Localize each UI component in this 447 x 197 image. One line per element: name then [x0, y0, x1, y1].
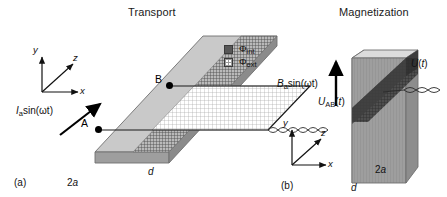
current-rest: sin(ωt)	[23, 105, 53, 116]
current-drive-label: Iasin(ωt)	[16, 105, 53, 116]
point-marker-a	[95, 126, 102, 133]
point-marker-b	[166, 82, 173, 89]
panel-b-tag: (b)	[281, 180, 293, 191]
voltage-rest-b: (t)	[418, 58, 427, 69]
legend-label-flux-internal: Φint	[239, 43, 255, 54]
width-label-a-italic: a	[73, 177, 79, 188]
figure-root: Transport y z x Iasin(ωt) A B UAB(t) d 2…	[0, 0, 447, 197]
thickness-label-a: d	[148, 166, 154, 177]
voltage-subscript-ab: AB	[325, 100, 335, 109]
width-label-a: 2a	[67, 177, 78, 188]
field-symbol: B	[277, 78, 284, 89]
field-rest: sin(ωt)	[288, 78, 318, 89]
thickness-label-b: d	[351, 182, 357, 193]
panel-b-title: Magnetization	[339, 6, 409, 18]
panel-a-title: Transport	[128, 6, 176, 18]
point-label-b: B	[155, 73, 162, 85]
axis-label-x-b: x	[328, 158, 333, 169]
legend-sub-int: int	[247, 47, 255, 56]
width-label-b: 2a	[375, 164, 386, 175]
voltage-label-ab: UAB(t)	[318, 96, 345, 107]
width-label-b-italic: a	[381, 164, 387, 175]
axis-label-y-b: y	[283, 117, 288, 128]
current-drive-arrow	[60, 104, 100, 135]
field-subscript: a	[284, 82, 288, 91]
twisted-pair-lead-a	[268, 128, 328, 133]
field-drive-label: Basin(ωt)	[277, 78, 318, 89]
voltage-label-b: U(t)	[411, 58, 428, 69]
axis-label-z-b: z	[321, 127, 326, 138]
legend-swatch-flux-internal	[224, 45, 233, 54]
legend-sub-ext: ext	[247, 60, 257, 69]
current-subscript: a	[19, 109, 23, 118]
axis-label-x-a: x	[80, 85, 85, 96]
axis-label-z-a: z	[73, 52, 78, 63]
panel-a-tag: (a)	[14, 177, 26, 188]
point-label-a: A	[81, 117, 88, 129]
voltage-rest-ab: (t)	[335, 96, 344, 107]
legend-swatch-flux-external	[224, 58, 233, 67]
legend-label-flux-external: Φext	[239, 56, 257, 67]
axis-label-y-a: y	[33, 44, 38, 55]
